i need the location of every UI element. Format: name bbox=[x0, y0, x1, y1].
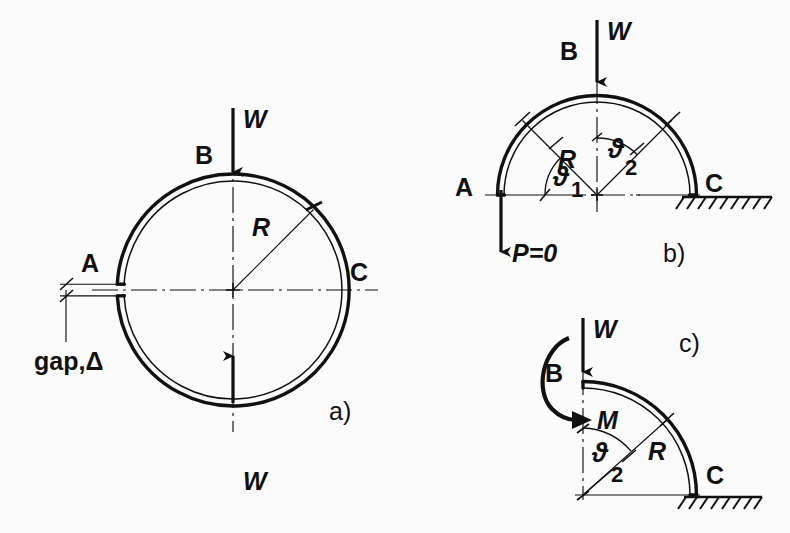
panel-c-theta2-label: ϑ bbox=[591, 438, 609, 468]
panel-a-radius-label: R bbox=[252, 213, 270, 241]
panel-a-load-bottom-label: W bbox=[243, 467, 269, 495]
panel-b-caption: b) bbox=[663, 239, 685, 267]
panel-c-caption: c) bbox=[679, 329, 700, 357]
panel-a-caption: a) bbox=[329, 397, 351, 425]
panel-b-load-label: W bbox=[607, 17, 633, 45]
panel-c-radius-label: R bbox=[648, 437, 666, 465]
panel-a-point-c-label: C bbox=[350, 258, 368, 286]
panel-b-theta1-subscript: 1 bbox=[571, 177, 583, 202]
panel-c-load-label: W bbox=[593, 315, 619, 343]
panel-a-load-top-label: W bbox=[243, 105, 269, 133]
panel-b-theta1-label: ϑ bbox=[552, 162, 570, 192]
engineering-diagram: R W W A B C gap,Δ a) bbox=[0, 0, 790, 533]
panel-b-point-a-label: A bbox=[455, 173, 473, 201]
panel-b-point-b-label: B bbox=[560, 37, 578, 65]
panel-a-point-b-label: B bbox=[195, 141, 213, 169]
panel-c-theta2-subscript: 2 bbox=[611, 462, 623, 487]
panel-a-gap-label: gap,Δ bbox=[34, 347, 103, 375]
panel-a-point-a-label: A bbox=[81, 249, 99, 277]
panel-b-force-p-label: P=0 bbox=[512, 239, 557, 267]
panel-c-point-c-label: C bbox=[706, 461, 724, 489]
panel-b-point-c-label: C bbox=[705, 169, 723, 197]
panel-c-point-b-label: B bbox=[545, 359, 563, 387]
figure-root: R W W A B C gap,Δ a) bbox=[0, 0, 790, 533]
panel-b-theta2-subscript: 2 bbox=[625, 155, 637, 180]
panel-b-theta2-label: ϑ bbox=[607, 134, 625, 164]
panel-c-moment-label: M bbox=[597, 406, 619, 434]
